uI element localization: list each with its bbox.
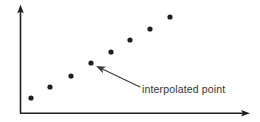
data-point [167, 14, 172, 19]
data-point [108, 49, 113, 54]
y-axis [17, 5, 24, 114]
x-axis [20, 110, 250, 117]
plot-canvas: interpolated point [0, 0, 260, 122]
scatter-plot-figure: interpolated point [0, 0, 260, 122]
data-point [147, 26, 152, 31]
annotation-leader [96, 66, 140, 87]
data-point [47, 84, 52, 89]
data-point [68, 73, 73, 78]
data-point [28, 95, 33, 100]
data-point-interpolated [88, 60, 93, 65]
annotation-label: interpolated point [142, 83, 225, 95]
data-point [127, 37, 132, 42]
annotation-leader-line [102, 69, 140, 87]
